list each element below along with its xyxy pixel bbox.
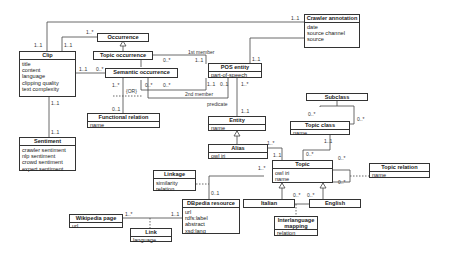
attribute: name — [88, 122, 159, 128]
multiplicity-label: 0..* — [293, 193, 301, 198]
multiplicity-label: 0..* — [306, 152, 314, 157]
multiplicity-label: 0..1 — [211, 191, 219, 196]
class-wikipedia-page: Wikipedia page url — [69, 214, 123, 228]
class-topic-relation: Topic relation name — [369, 163, 430, 178]
class-title: DBpedia resource — [183, 200, 239, 208]
class-interlanguage-mapping: Interlanguage mapping relation — [274, 216, 318, 236]
class-title: Topic class — [291, 122, 349, 130]
multiplicity-label: 0..* — [307, 193, 315, 198]
multiplicity-label: 0..1 — [112, 107, 120, 112]
class-title: English — [310, 200, 360, 207]
role-label: predicate — [207, 102, 228, 107]
attribute: language — [131, 237, 171, 243]
attribute: text complexity — [20, 86, 75, 92]
multiplicity-label: 1..1 — [241, 109, 249, 114]
attribute: expert sentiment — [20, 166, 75, 172]
class-subclass: Subclass — [306, 93, 368, 101]
class-english: English — [309, 199, 361, 208]
attribute: xsd:lang — [183, 228, 239, 234]
attribute: name — [370, 172, 429, 178]
multiplicity-label: 0..* — [163, 83, 171, 88]
multiplicity-label: 0..1 — [220, 82, 228, 87]
class-title: Alias — [209, 145, 267, 153]
class-title: Topic relation — [370, 164, 429, 172]
multiplicity-label: 1..1 — [64, 43, 72, 48]
class-title: Sentiment — [20, 138, 75, 146]
multiplicity-label: 1..1 — [79, 67, 87, 72]
class-title: Topic — [273, 161, 332, 169]
class-topic-class: Topic class name — [290, 121, 350, 135]
class-title: Topic occurrence — [94, 52, 152, 59]
class-title: Occurrence — [98, 34, 148, 41]
multiplicity-label: 0..* — [338, 180, 346, 185]
multiplicity-label: 1..* — [86, 30, 94, 35]
multiplicity-label: 1..1 — [34, 43, 42, 48]
class-title: Link — [131, 229, 171, 237]
class-title: Functional relation — [88, 114, 159, 122]
multiplicity-label: 1..1 — [51, 101, 59, 106]
multiplicity-label: 1..* — [258, 166, 266, 171]
multiplicity-label: 1..* — [267, 141, 275, 146]
multiplicity-label: 1..1 — [171, 212, 179, 217]
multiplicity-label: 0..* — [96, 67, 104, 72]
attribute: url — [70, 223, 122, 229]
attribute: owl iri — [209, 153, 267, 159]
multiplicity-label: 0..* — [163, 58, 171, 63]
attribute: name — [273, 176, 332, 182]
multiplicity-label: 1..1 — [273, 153, 281, 158]
class-title: Clip — [20, 52, 75, 60]
class-semantic-occurrence: Semantic occurrence — [105, 68, 178, 78]
multiplicity-label: 1..1 — [291, 16, 299, 21]
multiplicity-label: 0..* — [145, 83, 153, 88]
class-alias: Alias owl iri — [208, 144, 268, 159]
class-linkage: Linkage similarity relation — [153, 170, 196, 191]
class-link: Link language — [130, 228, 172, 242]
constraint-label: {OR} — [126, 89, 137, 94]
multiplicity-label: 1..1 — [51, 130, 59, 135]
class-clip: Clip title content language clipping qua… — [19, 51, 76, 97]
class-title: Interlanguage mapping — [275, 217, 317, 230]
class-title: POS entity — [209, 64, 261, 72]
attribute: relation — [154, 186, 195, 192]
role-label: 2nd member — [185, 92, 213, 97]
class-topic-occurrence: Topic occurrence — [93, 51, 153, 60]
multiplicity-label: 0..* — [308, 112, 316, 117]
attribute: name — [291, 130, 349, 136]
attribute: name — [209, 125, 265, 131]
attribute: part-of-speech — [209, 72, 261, 78]
class-title: Crawler annotation — [305, 15, 359, 23]
class-title: Linkage — [154, 171, 195, 179]
attribute: relation — [275, 230, 317, 236]
multiplicity-label: 1..1 — [252, 57, 260, 62]
multiplicity-label: 0..* — [357, 117, 365, 122]
multiplicity-label: 1..1 — [195, 58, 203, 63]
multiplicity-label: 1..1 — [324, 139, 332, 144]
class-entity: Entity name — [208, 116, 266, 131]
class-sentiment: Sentiment crawler sentiment nlp sentimen… — [19, 137, 76, 171]
multiplicity-label: 1..* — [241, 82, 249, 87]
role-label: 1st member — [188, 50, 214, 55]
multiplicity-label: 1..* — [112, 83, 120, 88]
class-title: Wikipedia page — [70, 215, 122, 223]
class-dbpedia-resource: DBpedia resource url rdfs:label abstract… — [182, 199, 240, 234]
class-title: Semantic occurrence — [106, 69, 177, 76]
class-italian: Italian — [243, 199, 295, 208]
class-occurrence: Occurrence — [97, 33, 149, 42]
class-title: Subclass — [307, 94, 367, 100]
multiplicity-label: 0..* — [338, 156, 346, 161]
class-functional-relation: Functional relation name — [87, 113, 160, 128]
class-title: Entity — [209, 117, 265, 125]
multiplicity-label: 1..1 — [207, 82, 215, 87]
attribute: ... — [305, 43, 359, 49]
multiplicity-label: 1..* — [125, 212, 133, 217]
class-topic: Topic owl iri name — [272, 160, 333, 183]
class-crawler-annotation: Crawler annotation date source channel s… — [304, 14, 360, 48]
class-pos-entity: POS entity part-of-speech — [208, 63, 262, 78]
class-title: Italian — [244, 200, 294, 207]
